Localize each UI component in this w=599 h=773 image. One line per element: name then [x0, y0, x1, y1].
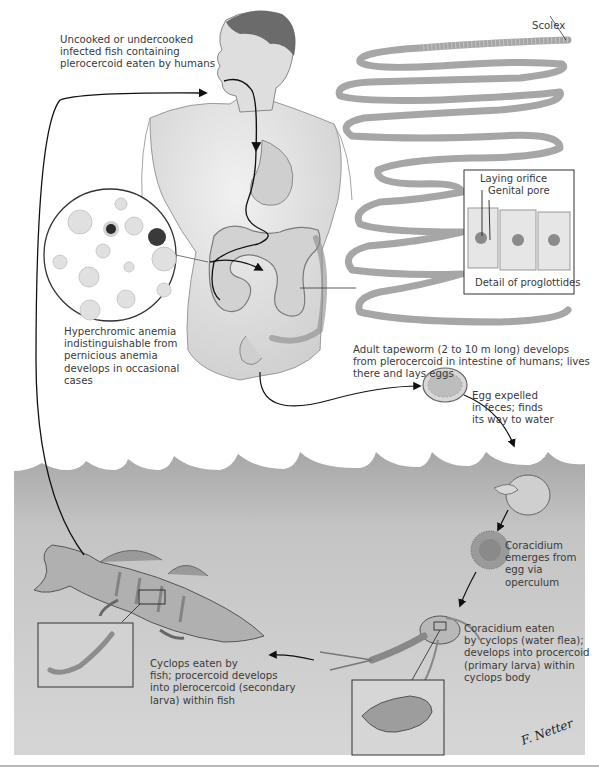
label-adult-tapeworm: Adult tapeworm (2 to 10 m long) develops…	[353, 344, 590, 381]
label-genital-pore: Genital pore	[488, 185, 550, 197]
label-fish: Cyclops eaten by fish; procercoid develo…	[150, 658, 296, 707]
plerocercoid-detail-box	[38, 623, 133, 687]
label-proglottid-detail: Detail of proglottides	[475, 277, 580, 289]
coracidium	[471, 531, 509, 569]
procercoid-detail-box	[352, 680, 444, 755]
bottom-divider	[0, 765, 599, 767]
label-egg: Egg expelled in feces; finds its way to …	[472, 390, 554, 427]
label-scolex: Scolex	[532, 20, 565, 32]
label-coracidium: Coracidium emerges from egg via operculu…	[505, 540, 576, 589]
label-anemia: Hyperchromic anemia indistinguishable fr…	[64, 326, 179, 387]
label-ingestion: Uncooked or undercooked infected fish co…	[60, 34, 215, 71]
water-region	[14, 452, 585, 755]
label-cyclops: Coracidium eaten by cyclops (water flea)…	[464, 623, 590, 684]
label-laying-orifice: Laying orifice	[480, 173, 547, 185]
